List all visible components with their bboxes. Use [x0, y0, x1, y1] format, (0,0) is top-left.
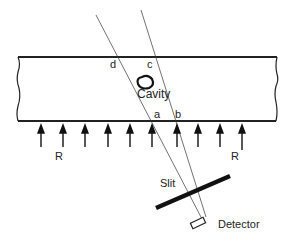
ray-lines [96, 10, 206, 219]
label-c: c [147, 59, 153, 70]
detector-box [190, 217, 205, 228]
label-a: a [154, 109, 160, 120]
radiography-diagram: d c Cavity a b R R Slit Detector [0, 0, 287, 241]
radiation-label-left: R [55, 151, 63, 162]
label-b: b [175, 109, 181, 120]
detector-label: Detector [218, 219, 260, 230]
diagram-graphics [0, 0, 287, 241]
label-d: d [110, 59, 116, 70]
cavity-label: Cavity [137, 88, 170, 100]
slit-label: Slit [160, 178, 175, 189]
radiation-label-right: R [231, 151, 239, 162]
radiation-arrows [38, 125, 245, 150]
